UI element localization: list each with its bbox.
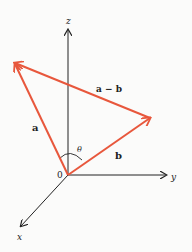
- x-axis: [21, 175, 68, 226]
- origin-label: 0: [57, 170, 63, 180]
- vector-b-label: b: [115, 150, 122, 161]
- vector-diff-label: a − b: [96, 84, 122, 94]
- x-axis-label: x: [17, 232, 22, 242]
- angle-arc: [60, 153, 82, 160]
- angle-label: θ: [77, 145, 82, 154]
- y-axis-label: y: [170, 172, 177, 182]
- vector-diagram: z y x 0 a b a − b θ: [0, 0, 192, 252]
- z-axis-label: z: [65, 16, 71, 26]
- vector-a-label: a: [32, 122, 39, 133]
- vector-a-minus-b: [15, 63, 150, 118]
